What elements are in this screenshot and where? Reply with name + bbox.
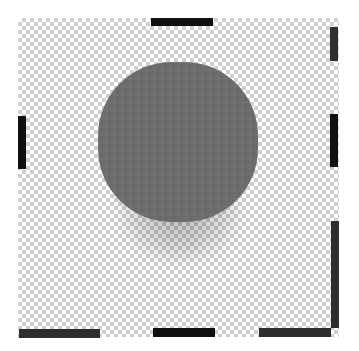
handle-bottom-left[interactable] [19, 329, 100, 338]
handle-bottom-center[interactable] [153, 328, 215, 337]
handle-left-middle[interactable] [18, 116, 26, 169]
gray-blob-shape[interactable] [98, 62, 258, 222]
handle-right-middle[interactable] [330, 114, 338, 167]
handle-bottom-right[interactable] [259, 328, 331, 337]
handle-right-bottom[interactable] [331, 221, 339, 328]
handle-right-top[interactable] [330, 27, 338, 61]
handle-top-center[interactable] [151, 18, 213, 26]
